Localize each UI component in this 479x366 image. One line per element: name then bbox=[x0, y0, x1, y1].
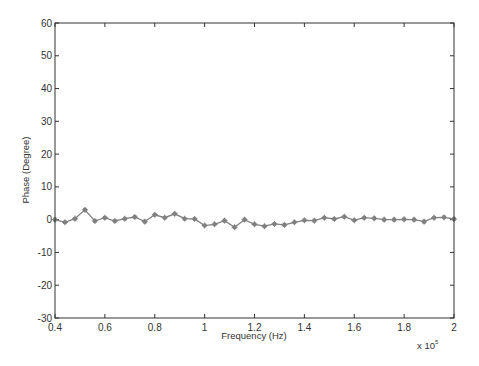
y-tick-label: 60 bbox=[41, 18, 53, 29]
data-point-marker bbox=[441, 214, 447, 220]
data-point-marker bbox=[132, 214, 138, 220]
data-point-marker bbox=[62, 219, 68, 225]
labels-layer: 0.40.60.811.21.41.61.82-30-20-1001020304… bbox=[38, 18, 458, 334]
phase-chart: 0.40.60.811.21.41.61.82-30-20-1001020304… bbox=[0, 0, 479, 366]
x-tick-label: 1 bbox=[202, 322, 208, 333]
data-point-marker bbox=[311, 218, 317, 224]
plot-frame bbox=[55, 23, 454, 318]
data-point-marker bbox=[102, 215, 108, 221]
y-tick-label: 0 bbox=[46, 214, 52, 225]
data-point-marker bbox=[271, 221, 277, 227]
data-point-marker bbox=[261, 223, 267, 229]
data-point-marker bbox=[431, 215, 437, 221]
x-tick-label: 1.6 bbox=[347, 322, 361, 333]
x-axis-label: Frequency (Hz) bbox=[221, 330, 286, 341]
data-point-marker bbox=[212, 221, 218, 227]
x-tick-label: 0.4 bbox=[48, 322, 62, 333]
data-point-marker bbox=[371, 215, 377, 221]
data-point-marker bbox=[281, 222, 287, 228]
x-tick-label: 0.6 bbox=[98, 322, 112, 333]
y-tick-label: 20 bbox=[41, 149, 53, 160]
data-point-marker bbox=[252, 221, 258, 227]
y-tick-label: -10 bbox=[38, 247, 53, 258]
data-point-marker bbox=[291, 219, 297, 225]
x-tick-label: 2 bbox=[451, 322, 457, 333]
y-tick-label: -20 bbox=[38, 280, 53, 291]
data-point-marker bbox=[162, 215, 168, 221]
data-point-marker bbox=[361, 215, 367, 221]
y-tick-label: 50 bbox=[41, 50, 53, 61]
data-point-marker bbox=[351, 217, 357, 223]
data-point-marker bbox=[381, 217, 387, 223]
y-tick-label: 30 bbox=[41, 116, 53, 127]
x-tick-label: 1.8 bbox=[397, 322, 411, 333]
y-tick-label: 10 bbox=[41, 181, 53, 192]
data-point-marker bbox=[301, 217, 307, 223]
x-multiplier-label: x 105 bbox=[417, 339, 439, 351]
y-tick-label: 40 bbox=[41, 83, 53, 94]
x-multiplier-base: x 10 bbox=[417, 340, 435, 351]
x-tick-label: 0.8 bbox=[148, 322, 162, 333]
data-point-marker bbox=[182, 216, 188, 222]
data-point-marker bbox=[421, 219, 427, 225]
data-point-marker bbox=[331, 216, 337, 222]
data-point-marker bbox=[112, 218, 118, 224]
data-point-marker bbox=[391, 217, 397, 223]
data-point-marker bbox=[172, 211, 178, 217]
data-point-marker bbox=[321, 215, 327, 221]
series-layer bbox=[52, 207, 457, 230]
x-tick-label: 1.4 bbox=[297, 322, 311, 333]
y-axis-label: Phase (Degree) bbox=[20, 136, 31, 203]
data-point-marker bbox=[401, 216, 407, 222]
data-point-marker bbox=[341, 214, 347, 220]
ticks-layer bbox=[55, 23, 454, 318]
x-multiplier-exponent: 5 bbox=[435, 339, 439, 345]
y-tick-label: -30 bbox=[38, 313, 53, 324]
data-point-marker bbox=[411, 217, 417, 223]
data-point-marker bbox=[222, 218, 228, 224]
data-point-marker bbox=[122, 216, 128, 222]
